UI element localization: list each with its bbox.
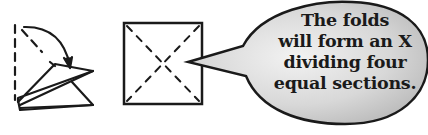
fold-step-illustration — [15, 25, 93, 110]
bubble-line-1: The folds — [264, 10, 426, 31]
bubble-line-4: equal sections. — [264, 73, 426, 94]
bubble-line-2: will form an X — [264, 31, 426, 52]
diagram-canvas: The folds will form an X dividing four e… — [0, 0, 428, 135]
bubble-line-3: dividing four — [264, 52, 426, 73]
curved-arrow-icon — [24, 27, 70, 66]
speech-bubble-text: The folds will form an X dividing four e… — [264, 10, 426, 94]
